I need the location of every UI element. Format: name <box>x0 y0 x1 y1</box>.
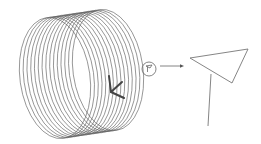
coil-loop <box>61 5 147 136</box>
coil-loop <box>65 5 151 136</box>
coil-loop <box>53 6 139 137</box>
coil-loop <box>42 8 128 139</box>
coil-loop <box>16 12 102 143</box>
flag-icon <box>190 49 248 126</box>
coil-loop <box>57 6 143 137</box>
coil-loop <box>19 12 105 143</box>
coil-cylinder <box>12 5 151 144</box>
coil-loop <box>46 8 132 139</box>
coil-loop <box>27 10 113 141</box>
callout-circle <box>142 62 156 76</box>
coil-loop <box>23 11 109 142</box>
flag-triangle <box>190 49 248 83</box>
coil-loop <box>35 9 121 140</box>
coil-loop <box>12 13 98 144</box>
coil-loop <box>31 10 117 141</box>
v-mark-icon <box>109 76 122 92</box>
arrow-icon <box>160 64 184 68</box>
coil-loop <box>38 9 124 140</box>
small-flag-icon <box>146 65 152 72</box>
flag-pole <box>208 74 211 126</box>
coil-diagram <box>0 0 261 144</box>
coil-loop <box>50 7 136 138</box>
